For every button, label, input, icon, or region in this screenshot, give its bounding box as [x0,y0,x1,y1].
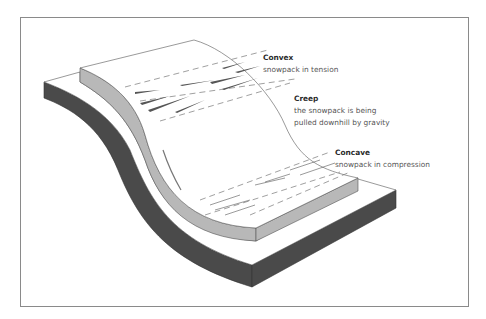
label-creep: Creep the snowpack is being pulled downh… [294,93,390,129]
label-concave: Concave snowpack in compression [335,147,430,171]
label-convex: Convex snowpack in tension [263,52,338,76]
